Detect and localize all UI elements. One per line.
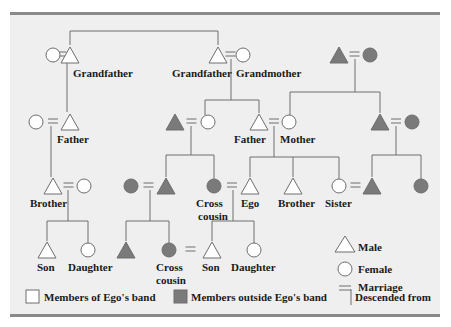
female-out-band-icon [414,179,428,193]
bottom-rule [10,314,440,317]
legend-descended-label: Descended from [355,291,431,303]
label-grandfather_paternal_line: Grandfather [73,67,133,79]
female-out-band-icon [405,115,419,129]
legend-female-label: Female [358,263,392,275]
legend-in-band-swatch [26,290,39,303]
label-daughter_left: Daughter [68,261,113,273]
label-grandmother: Grandmother [236,67,302,79]
female-in-band-icon [332,179,346,193]
female-out-band-icon [124,179,138,193]
label-mother: Mother [280,133,316,145]
female-in-band-icon [236,48,250,62]
label-brother: Brother [278,197,315,209]
female-in-band-icon [77,179,91,193]
label-daughter: Daughter [231,261,276,273]
legend-in-band-label: Members of Ego's band [44,291,156,303]
label-son: Son [202,261,220,273]
label-cross_cousin_2: cousin [156,274,186,286]
label-sister: Sister [325,197,352,209]
top-rule [10,12,440,15]
female-out-band-icon [207,179,221,193]
label-father: Father [234,133,266,145]
female-out-band-icon [162,243,176,257]
label-son_left: Son [37,261,55,273]
female-in-band-icon [46,48,60,62]
label-cross_cousin_1: Cross [196,197,223,209]
label-ego: Ego [241,197,260,209]
female-out-band-icon [363,48,377,62]
legend-outside-band-label: Members outside Ego's band [191,291,327,303]
legend-male-label: Male [358,241,382,253]
label-cross_cousin_1: cousin [198,210,228,222]
legend-female-icon [338,262,352,276]
kinship-diagram: GrandfatherGrandfatherGrandmotherFatherF… [0,0,451,327]
female-in-band-icon [247,243,261,257]
label-grandfather: Grandfather [172,67,232,79]
legend-outside-band-swatch [174,290,187,303]
label-cross_cousin_2: Cross [156,261,183,273]
label-brother_left: Brother [30,197,67,209]
female-in-band-icon [29,115,43,129]
female-in-band-icon [282,115,296,129]
female-in-band-icon [81,243,95,257]
female-in-band-icon [201,115,215,129]
label-father_left: Father [57,133,89,145]
